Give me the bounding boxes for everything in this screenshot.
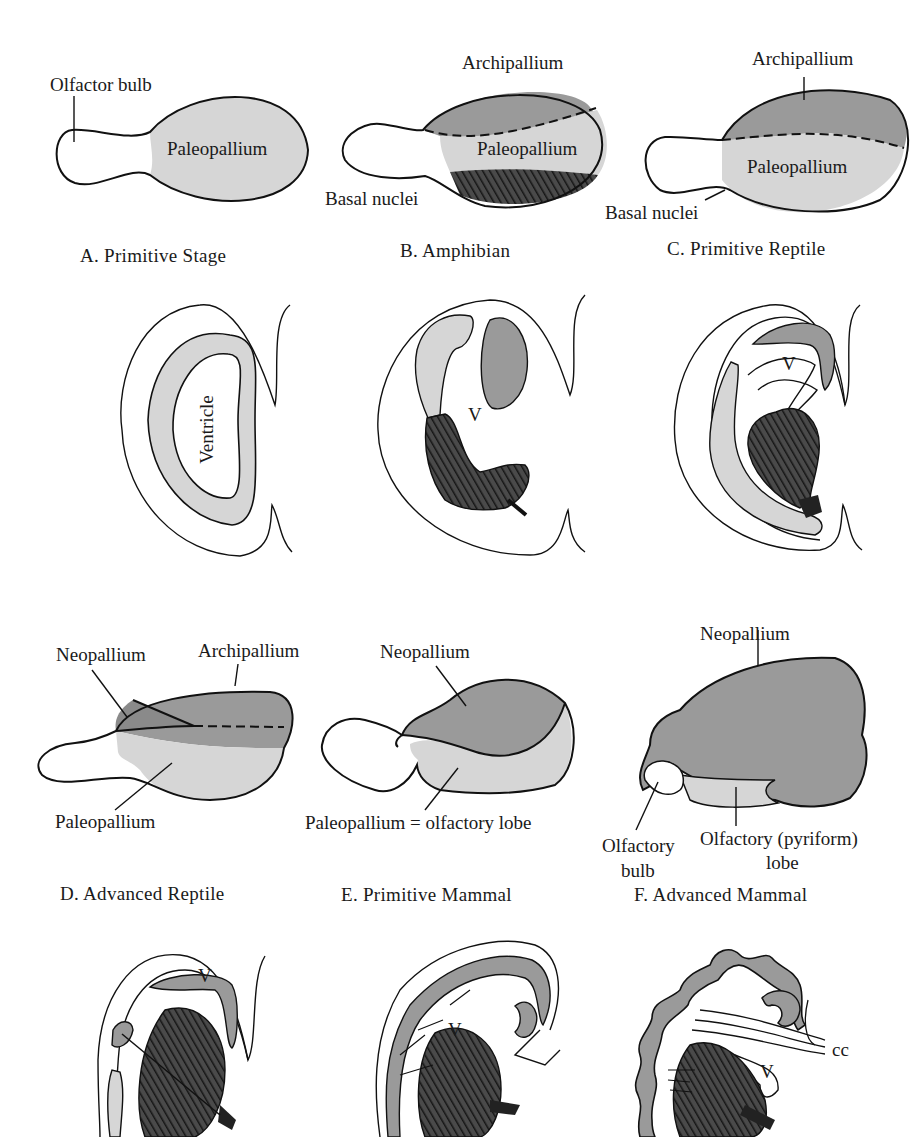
panel-f-advanced-mammal: Neopallium Olfactory bulb Olfactory (pyr… [600,600,924,1137]
panel-e-cross-section [300,600,620,1137]
panel-c-primitive-reptile: Archipallium Paleopallium Basal nuclei C… [600,0,924,600]
label-ventricle-v: V [782,354,796,373]
panel-d-advanced-reptile: Neopallium Archipallium Paleopallium D. … [0,600,320,1137]
panel-a-cross-section [0,0,310,600]
label-ventricle-v: V [760,1062,774,1081]
panel-f-cross-section [600,600,924,1137]
label-corpus-callosum-cc: cc [832,1040,849,1059]
label-ventricle-v: V [468,405,482,424]
panel-c-cross-section [600,0,924,600]
panel-e-primitive-mammal: Neopallium Paleopallium = olfactory lobe… [300,600,620,1137]
panel-b-cross-section [300,0,620,600]
label-ventricle-v: V [198,966,212,985]
label-ventricle-v: V [448,1020,462,1039]
panel-d-cross-section [0,600,320,1137]
panel-a-primitive-stage: Olfactor bulb Paleopallium A. Primitive … [0,0,310,600]
panel-b-amphibian: Archipallium Paleopallium Basal nuclei B… [300,0,620,600]
label-ventricle: Ventricle [197,395,216,464]
